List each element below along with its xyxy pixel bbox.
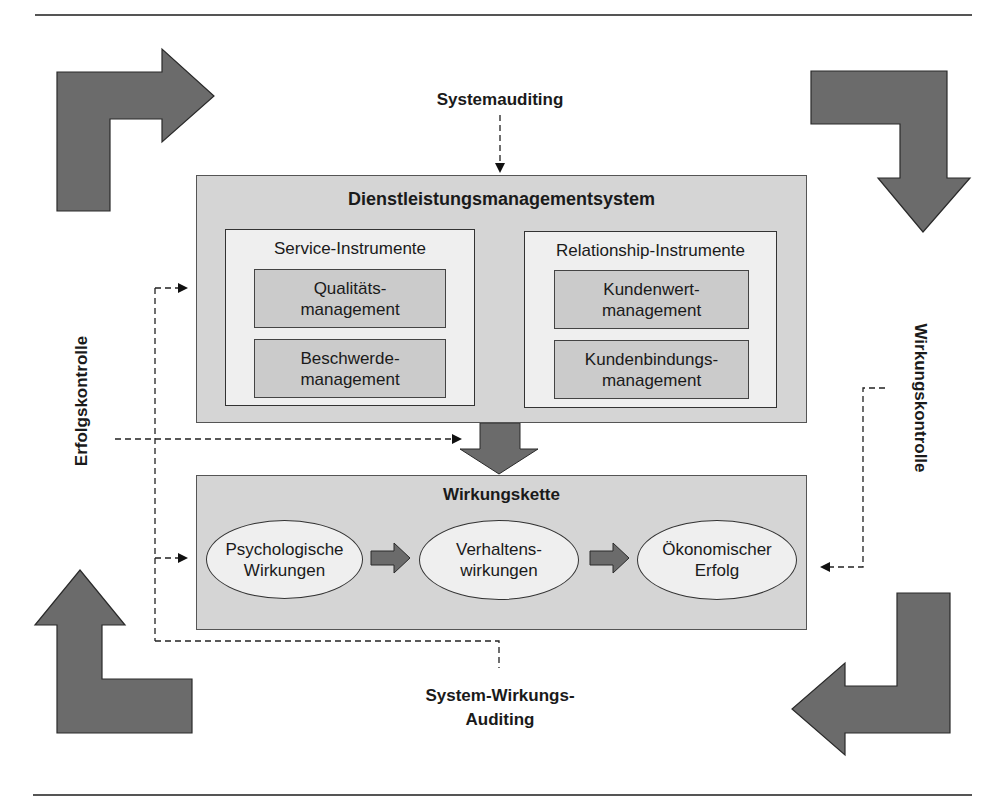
arrow-right-icon xyxy=(370,542,412,574)
beschwerdemanagement-line2: management xyxy=(300,369,399,390)
erfolgskontrolle-label: Erfolgskontrolle xyxy=(72,336,92,466)
chain-step-behavioral-line2: wirkungen xyxy=(460,560,538,581)
kundenbindungsmanagement-line2: management xyxy=(602,370,701,391)
relationship-instruments-title: Relationship-Instrumente xyxy=(525,241,776,261)
system-wirkungs-auditing-line2: Auditing xyxy=(380,708,620,732)
service-instruments-group: Service-Instrumente Qualitäts- managemen… xyxy=(225,229,475,406)
qualitaetsmanagement-line2: management xyxy=(300,299,399,320)
arrow-right-icon xyxy=(589,542,631,574)
beschwerdemanagement-line1: Beschwerde- xyxy=(300,348,399,369)
chain-step-psychological-line1: Psychologische xyxy=(225,539,343,560)
chain-step-economic-line2: Erfolg xyxy=(695,560,739,581)
system-wirkungs-auditing-connector xyxy=(155,641,499,668)
kundenwertmanagement-box: Kundenwert- management xyxy=(554,270,749,329)
service-instruments-title: Service-Instrumente xyxy=(226,239,474,259)
qualitaetsmanagement-line1: Qualitäts- xyxy=(314,278,387,299)
chain-title: Wirkungskette xyxy=(197,485,806,505)
system-title: Dienstleistungsmanagementsystem xyxy=(197,189,806,210)
chain-step-psychological: Psychologische Wirkungen xyxy=(206,520,363,599)
kundenwertmanagement-line1: Kundenwert- xyxy=(603,279,699,300)
arrow-right-corner-icon xyxy=(57,49,214,211)
chain-step-economic-line1: Ökonomischer xyxy=(662,539,772,560)
system-box: Dienstleistungsmanagementsystem Service-… xyxy=(196,175,807,423)
arrow-left-corner-icon xyxy=(792,593,950,755)
chain-step-behavioral: Verhaltens- wirkungen xyxy=(419,520,579,600)
kundenbindungsmanagement-box: Kundenbindungs- management xyxy=(554,340,749,399)
system-wirkungs-auditing-label: System-Wirkungs- Auditing xyxy=(380,684,620,732)
beschwerdemanagement-box: Beschwerde- management xyxy=(254,339,446,398)
wirkungskontrolle-connector xyxy=(822,388,885,567)
wirkungskontrolle-label: Wirkungskontrolle xyxy=(910,323,930,472)
arrow-down-icon xyxy=(460,423,538,474)
qualitaetsmanagement-box: Qualitäts- management xyxy=(254,269,446,328)
kundenbindungsmanagement-line1: Kundenbindungs- xyxy=(585,349,718,370)
chain-step-psychological-line2: Wirkungen xyxy=(244,560,325,581)
kundenwertmanagement-line2: management xyxy=(602,300,701,321)
arrow-up-corner-icon xyxy=(35,570,192,733)
system-wirkungs-auditing-line1: System-Wirkungs- xyxy=(380,684,620,708)
chain-box: Wirkungskette Psychologische Wirkungen V… xyxy=(196,475,807,630)
arrow-down-corner-icon xyxy=(811,71,970,232)
relationship-instruments-group: Relationship-Instrumente Kundenwert- man… xyxy=(524,231,777,408)
systemauditing-label: Systemauditing xyxy=(400,88,600,112)
chain-step-behavioral-line1: Verhaltens- xyxy=(456,539,542,560)
chain-step-economic: Ökonomischer Erfolg xyxy=(637,520,797,600)
